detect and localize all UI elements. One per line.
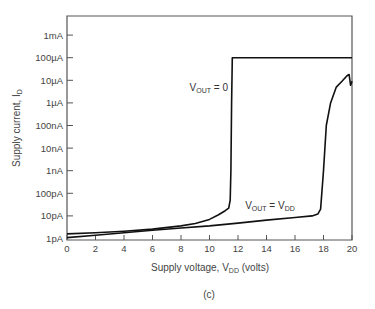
x-tick-label: 12	[233, 243, 244, 254]
y-tick-label: 100pA	[36, 188, 64, 199]
y-tick-label: 100nA	[36, 120, 64, 131]
x-tick-label: 16	[290, 243, 301, 254]
chart: 02468101214161820 1pA10pA100pA1nA10nA100…	[0, 0, 375, 309]
y-tick-label: 1mA	[43, 30, 63, 41]
y-tick-label: 1µA	[46, 97, 64, 108]
x-tick-label: 8	[178, 243, 183, 254]
y-tick-label: 10µA	[41, 75, 64, 86]
y-tick-label: 1pA	[46, 233, 64, 244]
x-axis-ticks: 02468101214161820	[64, 235, 357, 254]
y-axis-title: Supply current, ID	[11, 89, 23, 167]
y-tick-label: 1nA	[46, 165, 64, 176]
x-axis-title: Supply voltage, VDD (volts)	[151, 262, 269, 274]
y-tick-label: 100µA	[35, 52, 63, 63]
series-label-vout-vdd: VOUT = VDD	[245, 200, 295, 212]
y-tick-label: 10pA	[41, 210, 64, 221]
x-tick-label: 6	[150, 243, 155, 254]
figure-caption: (c)	[203, 289, 215, 300]
x-tick-label: 18	[318, 243, 329, 254]
x-tick-label: 4	[121, 243, 126, 254]
x-tick-label: 14	[261, 243, 272, 254]
plot-border	[67, 16, 352, 240]
x-tick-label: 2	[93, 243, 98, 254]
x-tick-label: 20	[347, 243, 358, 254]
series-lines	[67, 58, 352, 238]
plot-frame	[67, 16, 352, 240]
series-line-vout-0	[67, 58, 352, 234]
series-label-vout-0: VOUT = 0	[190, 82, 229, 94]
y-tick-label: 10nA	[41, 143, 64, 154]
x-tick-label: 10	[204, 243, 215, 254]
x-tick-label: 0	[64, 243, 69, 254]
series-line-vout-vdd	[67, 75, 352, 238]
